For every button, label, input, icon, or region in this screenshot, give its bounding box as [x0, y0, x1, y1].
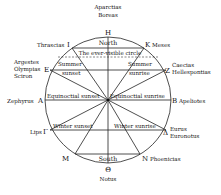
wind-top-letter: H: [105, 29, 111, 37]
wind-upperleft-name-1: Argestes: [13, 59, 39, 66]
wind-lowerright-name-1: Eurus: [170, 126, 187, 132]
wind-topright-letter: K: [145, 41, 151, 49]
wind-left-name: Zephyrus: [7, 98, 34, 105]
south-label: South: [99, 155, 117, 162]
wind-upperleft-name-3: Sciron: [14, 73, 33, 79]
wind-bottom-name: Notus: [100, 176, 117, 182]
wind-lowerright-name-2: Euronotus: [170, 133, 200, 139]
wind-topleft-letter: I: [67, 41, 70, 49]
wind-upperleft-letter: E: [44, 66, 49, 74]
ever-visible-label: The ever-visible circle: [79, 50, 142, 56]
wind-bottomright-letter: N: [142, 155, 148, 163]
wind-bottomleft-letter: M: [62, 155, 69, 163]
summer-sunrise-label-2: sunrise: [129, 70, 150, 76]
north-label: North: [99, 39, 118, 46]
wind-top-name-2: Boreas: [98, 12, 118, 18]
wind-topleft-name: Thrascias: [37, 42, 64, 48]
summer-sunrise-label-1: Summer: [128, 61, 152, 67]
winter-sunset-label: Winter sunset: [53, 123, 93, 129]
equinoctial-sunrise-label: Equinoctial sunrise: [110, 93, 166, 100]
wind-top-name-1: Aparctias: [93, 4, 121, 11]
wind-topright-name: Meses: [152, 42, 170, 48]
wind-bottom-letter: Θ: [105, 166, 111, 174]
wind-upperright-name-2: Hellespontias: [172, 69, 211, 76]
equinoctial-sunset-label: Equinoctial sunset: [47, 93, 100, 100]
center-point: [107, 99, 110, 102]
summer-sunset-label-2: sunset: [62, 70, 81, 76]
wind-bottomright-name: Phoenicias: [150, 156, 181, 162]
wind-lowerleft-name: Lips: [30, 129, 42, 136]
wind-right-letter: B: [172, 97, 177, 105]
wind-left-letter: A: [37, 97, 44, 105]
wind-upperleft-name-2: Olympias: [14, 66, 41, 73]
winter-sunrise-label: Winter sunrise: [114, 123, 156, 129]
wind-lowerright-letter: Δ: [163, 129, 168, 137]
wind-lowerleft-letter: Γ: [43, 128, 48, 136]
wind-right-name: Apeliotes: [178, 98, 205, 105]
wind-upperright-name-1: Caecias: [172, 62, 194, 68]
summer-sunset-label-1: Summer: [58, 61, 82, 67]
wind-upperright-letter: Z: [165, 67, 170, 75]
wind-rose-diagram: North The ever-visible circle Summer sun…: [0, 0, 221, 195]
